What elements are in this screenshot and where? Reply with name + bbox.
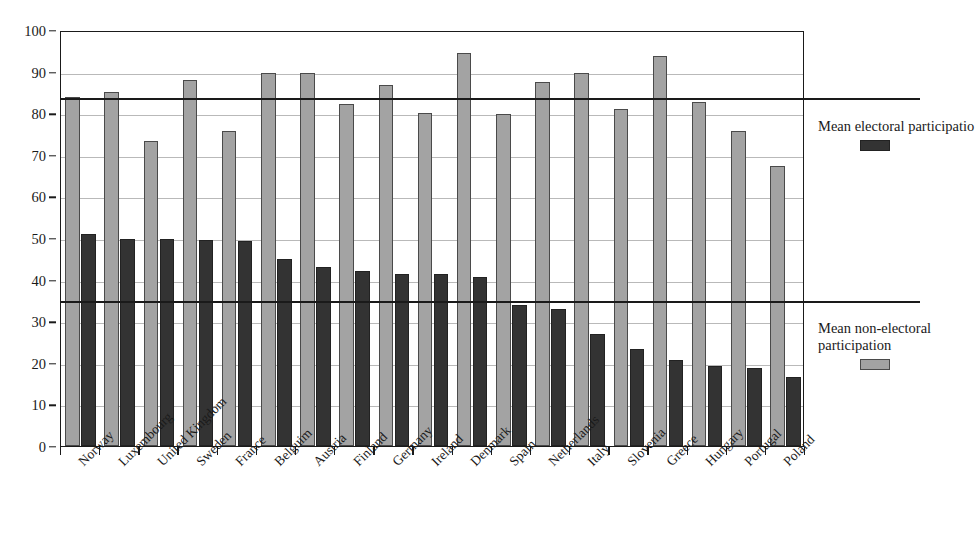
bar-group	[335, 32, 374, 446]
bar-group	[727, 32, 766, 446]
bar-group	[61, 32, 100, 446]
bar-group	[453, 32, 492, 446]
y-tick-label: 10	[32, 398, 47, 413]
legend-label-non-electoral: Mean non-electoral participation	[818, 320, 978, 354]
bar-group	[688, 32, 727, 446]
bar-group	[531, 32, 570, 446]
bar-chart: 0102030405060708090100 NorwayLuxembourgU…	[0, 0, 980, 560]
y-tick-label: 50	[32, 232, 47, 247]
legend-item-non-electoral: Mean non-electoral participation	[818, 320, 978, 370]
bar-group	[257, 32, 296, 446]
bar-group	[413, 32, 452, 446]
bar-non-electoral	[770, 166, 785, 446]
bar-non-electoral	[457, 53, 472, 446]
bar-electoral	[512, 305, 527, 446]
bar-electoral	[81, 234, 96, 446]
bar-non-electoral	[614, 109, 629, 446]
bar-electoral	[708, 366, 723, 446]
y-axis: 0102030405060708090100	[0, 0, 60, 460]
bar-group	[570, 32, 609, 446]
bar-group	[139, 32, 178, 446]
bar-group	[100, 32, 139, 446]
y-tick-mark	[49, 113, 56, 114]
bar-electoral	[786, 377, 801, 446]
legend-swatch-non-electoral	[860, 359, 890, 370]
bar-non-electoral	[261, 73, 276, 446]
bar-non-electoral	[183, 80, 198, 446]
bar-group	[492, 32, 531, 446]
bar-non-electoral	[104, 92, 119, 446]
bar-electoral	[747, 368, 762, 446]
bar-group	[178, 32, 217, 446]
y-tick-mark	[49, 155, 56, 156]
bar-non-electoral	[300, 73, 315, 446]
bar-non-electoral	[65, 97, 80, 446]
y-tick-mark	[49, 72, 56, 73]
bar-group	[218, 32, 257, 446]
bar-electoral	[395, 274, 410, 446]
bar-electoral	[669, 360, 684, 446]
bar-group	[374, 32, 413, 446]
legend-label-electoral: Mean electoral participatio	[818, 118, 980, 135]
y-tick-mark	[49, 321, 56, 322]
y-tick-label: 60	[32, 190, 47, 205]
y-tick-mark	[49, 363, 56, 364]
y-tick-mark	[49, 280, 56, 281]
bar-electoral	[630, 349, 645, 446]
bar-electoral	[277, 259, 292, 446]
legend-item-electoral: Mean electoral participatio	[818, 118, 980, 151]
bar-non-electoral	[731, 131, 746, 446]
bar-non-electoral	[692, 102, 707, 446]
bar-group	[766, 32, 805, 446]
bar-electoral	[120, 239, 135, 446]
y-tick-mark	[49, 446, 56, 447]
y-tick-label: 40	[32, 273, 47, 288]
x-tick-mark	[60, 447, 61, 455]
bar-non-electoral	[653, 56, 668, 446]
bar-group	[609, 32, 648, 446]
y-tick-mark	[49, 197, 56, 198]
bar-electoral	[316, 267, 331, 446]
y-tick-label: 20	[32, 357, 47, 372]
bar-non-electoral	[144, 141, 159, 446]
bar-group	[296, 32, 335, 446]
bar-non-electoral	[379, 85, 394, 446]
bar-electoral	[551, 309, 566, 446]
y-tick-label: 0	[39, 440, 46, 455]
plot-area	[60, 31, 804, 447]
y-tick-label: 90	[32, 65, 47, 80]
mean-non-electoral-reference	[60, 98, 920, 100]
bar-non-electoral	[496, 114, 511, 446]
y-tick-label: 30	[32, 315, 47, 330]
x-axis: NorwayLuxembourgUnited KingdomSwedenFran…	[60, 447, 804, 560]
y-tick-mark	[49, 405, 56, 406]
bar-non-electoral	[339, 104, 354, 446]
bar-electoral	[355, 271, 370, 446]
y-tick-label: 80	[32, 107, 47, 122]
y-tick-label: 100	[24, 24, 46, 39]
bar-group	[648, 32, 687, 446]
y-tick-label: 70	[32, 149, 47, 164]
bar-non-electoral	[574, 73, 589, 446]
mean-electoral-reference	[60, 301, 920, 303]
y-tick-mark	[49, 30, 56, 31]
legend-swatch-electoral	[860, 140, 890, 151]
bar-electoral	[434, 274, 449, 446]
bar-non-electoral	[535, 82, 550, 446]
bar-electoral	[238, 241, 253, 446]
y-tick-mark	[49, 238, 56, 239]
bar-non-electoral	[418, 113, 433, 446]
